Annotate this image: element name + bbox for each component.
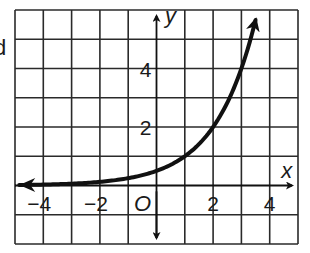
- x-axis-label: x: [280, 158, 293, 183]
- y-tick-label: 4: [140, 58, 152, 81]
- stray-text-fragment: d: [0, 35, 6, 60]
- x-tick-label: −2: [84, 192, 108, 215]
- x-tick-label: 2: [207, 192, 219, 215]
- x-tick-label: −4: [27, 192, 51, 215]
- y-axis-label: y: [163, 3, 178, 28]
- chart: d −4−22424xyO: [0, 0, 310, 253]
- x-tick-label: 4: [264, 192, 276, 215]
- origin-label: O: [134, 191, 151, 216]
- curve-line: [19, 20, 255, 185]
- curve-layer: [19, 20, 255, 192]
- y-tick-label: 2: [140, 116, 152, 139]
